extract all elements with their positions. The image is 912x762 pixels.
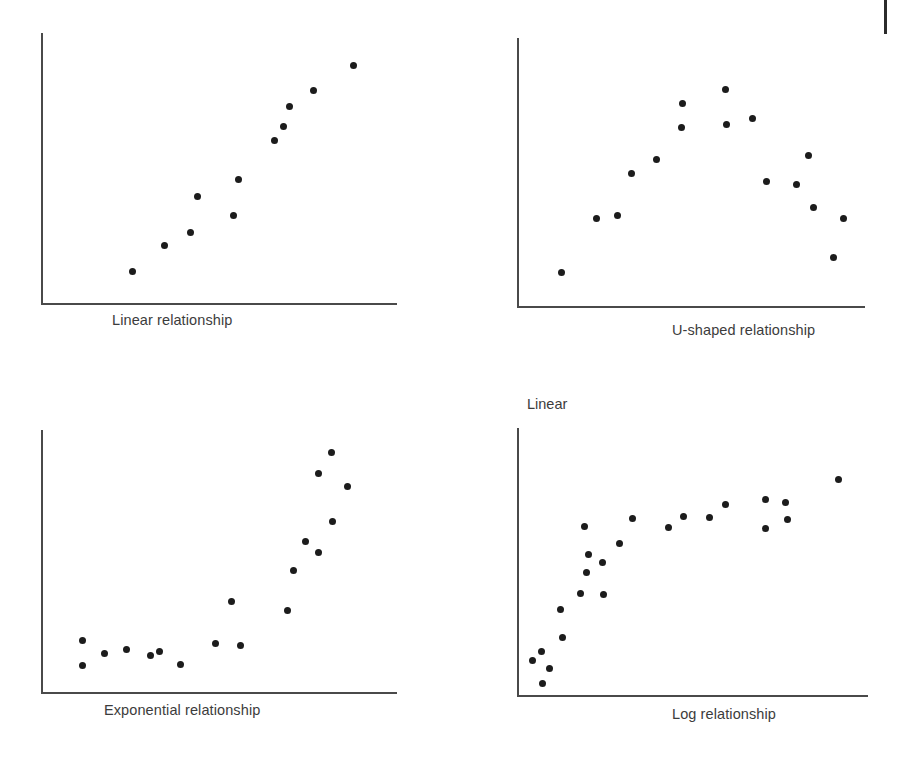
data-point	[722, 86, 729, 93]
data-point	[593, 215, 600, 222]
data-point	[235, 176, 242, 183]
data-point	[129, 268, 136, 275]
data-point	[101, 650, 108, 657]
data-point	[315, 470, 322, 477]
x-axis-exponential	[41, 692, 397, 694]
data-point	[280, 123, 287, 130]
data-point	[344, 483, 351, 490]
data-point	[784, 516, 791, 523]
page-corner-rule-mark	[884, 0, 887, 34]
data-point	[284, 607, 291, 614]
data-point	[302, 538, 309, 545]
x-axis-log	[517, 695, 868, 697]
y-axis-linear	[41, 33, 43, 303]
data-point	[315, 549, 322, 556]
data-point	[680, 513, 687, 520]
y-axis-exponential	[41, 430, 43, 692]
data-point	[177, 661, 184, 668]
data-point	[762, 525, 769, 532]
data-point	[79, 637, 86, 644]
data-point	[328, 449, 335, 456]
data-point	[271, 137, 278, 144]
data-point	[653, 156, 660, 163]
caption-u-shaped: U-shaped relationship	[672, 322, 815, 338]
data-point	[599, 559, 606, 566]
data-point	[793, 181, 800, 188]
caption-linear: Linear relationship	[112, 312, 232, 328]
data-point	[147, 652, 154, 659]
data-point	[156, 648, 163, 655]
x-axis-linear	[41, 303, 397, 305]
data-point	[782, 499, 789, 506]
data-point	[678, 124, 685, 131]
data-point	[628, 170, 635, 177]
data-point	[161, 242, 168, 249]
x-axis-u-shaped	[517, 306, 865, 308]
data-point	[557, 606, 564, 613]
data-point	[665, 524, 672, 531]
data-point	[830, 254, 837, 261]
caption-exponential: Exponential relationship	[104, 702, 260, 718]
y-axis-u-shaped	[517, 38, 519, 306]
data-point	[585, 551, 592, 558]
data-point	[706, 514, 713, 521]
data-point	[558, 269, 565, 276]
data-point	[187, 229, 194, 236]
data-point	[614, 212, 621, 219]
data-point	[329, 518, 336, 525]
data-point	[529, 657, 536, 664]
data-point	[194, 193, 201, 200]
figure-page: Linear relationship U-shaped relationshi…	[0, 0, 912, 762]
data-point	[600, 591, 607, 598]
page-footer-artifact	[0, 752, 912, 762]
data-point	[679, 100, 686, 107]
data-point	[805, 152, 812, 159]
data-point	[350, 62, 357, 69]
data-point	[286, 103, 293, 110]
data-point	[79, 662, 86, 669]
data-point	[616, 540, 623, 547]
data-point	[810, 204, 817, 211]
data-point	[581, 523, 588, 530]
data-point	[228, 598, 235, 605]
caption-log: Log relationship	[672, 706, 776, 722]
axis-label-linear: Linear	[527, 396, 567, 412]
data-point	[835, 476, 842, 483]
data-point	[538, 648, 545, 655]
data-point	[310, 87, 317, 94]
data-point	[749, 115, 756, 122]
data-point	[539, 680, 546, 687]
y-axis-log	[517, 428, 519, 695]
data-point	[577, 590, 584, 597]
data-point	[290, 567, 297, 574]
data-point	[762, 496, 769, 503]
data-point	[559, 634, 566, 641]
data-point	[629, 515, 636, 522]
data-point	[237, 642, 244, 649]
data-point	[583, 569, 590, 576]
data-point	[763, 178, 770, 185]
data-point	[840, 215, 847, 222]
data-point	[722, 501, 729, 508]
data-point	[723, 121, 730, 128]
data-point	[230, 212, 237, 219]
data-point	[546, 665, 553, 672]
data-point	[123, 646, 130, 653]
data-point	[212, 640, 219, 647]
